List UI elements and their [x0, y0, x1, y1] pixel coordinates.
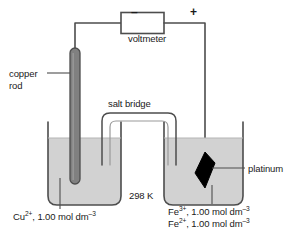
left-solution-exponent: –3: [89, 210, 96, 217]
circuit-wire-right: [164, 23, 205, 157]
copper-rod-label: copper rod: [9, 68, 37, 91]
right-solution-line1-exponent: –3: [243, 205, 250, 212]
salt-bridge-label: salt bridge: [108, 98, 151, 110]
temperature-label: 298 K: [129, 190, 153, 202]
negative-terminal-label: –: [131, 7, 138, 19]
voltmeter: [121, 13, 164, 34]
copper-rod-electrode: [70, 48, 80, 184]
right-solution-line2: Fe2+, 1.00 mol dm–3: [168, 218, 250, 230]
positive-terminal-label: +: [190, 7, 197, 19]
copper-rod-label-line2: rod: [9, 80, 22, 91]
right-solution-line1-charge: 3+: [179, 205, 186, 212]
left-solution-charge: 2+: [25, 210, 32, 217]
voltmeter-label: voltmeter: [128, 33, 166, 45]
right-solution-line1-species: Fe: [168, 206, 179, 217]
copper-rod-label-line1: copper: [9, 68, 37, 79]
right-solution-line2-exponent: –3: [243, 216, 250, 223]
left-solution-label: Cu2+, 1.00 mol dm–3: [13, 211, 96, 223]
electrochemical-cell-diagram: copper rod voltmeter – + salt bridge pla…: [0, 0, 303, 244]
right-solution-line1-concentration: 1.00 mol dm: [191, 206, 242, 217]
left-solution-species: Cu: [13, 211, 25, 222]
right-solution-line2-species: Fe: [168, 218, 179, 229]
right-solution-line2-concentration: 1.00 mol dm: [191, 218, 242, 229]
platinum-label: platinum: [248, 163, 283, 175]
right-solution-line2-charge: 2+: [179, 216, 186, 223]
left-solution-concentration: 1.00 mol dm: [37, 211, 88, 222]
right-solution-label: Fe3+, 1.00 mol dm–3 Fe2+, 1.00 mol dm–3: [168, 206, 250, 229]
circuit-wire-left: [75, 23, 121, 48]
